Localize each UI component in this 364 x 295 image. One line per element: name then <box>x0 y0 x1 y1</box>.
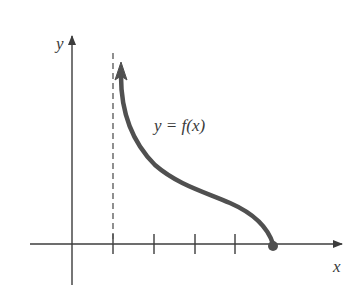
x-axis-label: x <box>332 257 341 276</box>
function-curve <box>121 76 273 244</box>
endpoint-dot <box>268 241 278 251</box>
y-axis-label: y <box>54 34 64 53</box>
graph-figure: y x y = f(x) <box>0 0 364 295</box>
curve-label: y = f(x) <box>152 116 205 135</box>
